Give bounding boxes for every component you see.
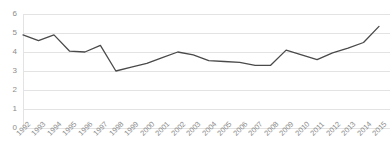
line-chart: 0123456 19921993199419951996199719981999…: [0, 0, 390, 162]
y-tick-label-3: 3: [5, 67, 17, 75]
y-tick-label-4: 4: [5, 48, 17, 56]
plot-area: [0, 0, 390, 162]
y-tick-label-1: 1: [5, 105, 17, 113]
y-tick-label-2: 2: [5, 86, 17, 94]
y-tick-label-6: 6: [5, 10, 17, 18]
y-tick-label-5: 5: [5, 29, 17, 37]
gridlines: [23, 14, 390, 128]
